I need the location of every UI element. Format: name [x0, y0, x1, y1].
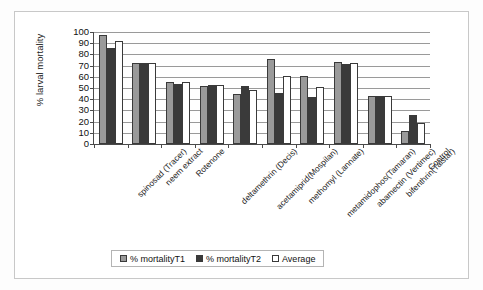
bar[interactable] [384, 96, 392, 144]
figure-container: % larval mortality 010203040506070809010… [0, 0, 483, 290]
y-axis-tick-label: 80 [78, 50, 89, 60]
bar-group [396, 32, 430, 144]
y-axis-tick-label: 50 [78, 83, 89, 93]
bar[interactable] [401, 131, 409, 144]
legend-item[interactable]: % mortalityT2 [196, 254, 261, 264]
bar[interactable] [342, 64, 350, 144]
chart-frame: % larval mortality 010203040506070809010… [14, 11, 469, 279]
bar[interactable] [200, 86, 208, 144]
bar-group [161, 32, 195, 144]
y-axis-tick-label: 0 [84, 139, 89, 149]
bar[interactable] [376, 96, 384, 144]
y-axis-tick-label: 90 [78, 38, 89, 48]
bar[interactable] [182, 82, 190, 144]
bar[interactable] [216, 85, 224, 144]
legend-swatch-icon [272, 255, 279, 262]
legend-label: Average [282, 254, 315, 264]
bar-group [262, 32, 296, 144]
bar[interactable] [334, 62, 342, 144]
bar[interactable] [267, 59, 275, 144]
bar[interactable] [417, 123, 425, 144]
y-axis-tick-label: 70 [78, 61, 89, 71]
bar-group [128, 32, 162, 144]
chart-legend: % mortalityT1% mortalityT2Average [111, 250, 324, 267]
bar-groups [94, 32, 430, 144]
plot-wrapper: % larval mortality 010203040506070809010… [15, 12, 470, 280]
bar-group [363, 32, 397, 144]
legend-label: % mortalityT2 [206, 254, 261, 264]
bar[interactable] [409, 115, 417, 144]
bar[interactable] [316, 87, 324, 144]
bar[interactable] [208, 85, 216, 144]
bar[interactable] [140, 63, 148, 144]
x-axis-category-labels: spinosad (Tracer)neem extractRotenonedel… [93, 146, 429, 242]
legend-item[interactable]: Average [272, 254, 315, 264]
y-axis-tick-label: 20 [78, 117, 89, 127]
bar-group [296, 32, 330, 144]
y-axis-tick-label: 10 [78, 128, 89, 138]
bar[interactable] [283, 76, 291, 144]
bar[interactable] [174, 84, 182, 144]
plot-area [93, 32, 430, 145]
bar[interactable] [99, 35, 107, 144]
bar[interactable] [249, 90, 257, 144]
bar-group [195, 32, 229, 144]
bar[interactable] [233, 94, 241, 144]
y-axis-tick-labels: 0102030405060708090100 [61, 32, 89, 144]
bar-group [228, 32, 262, 144]
y-axis-title: % larval mortality [34, 15, 54, 125]
bar[interactable] [308, 97, 316, 144]
y-axis-tick-label: 60 [78, 72, 89, 82]
y-axis-tick-label: 40 [78, 94, 89, 104]
bar[interactable] [166, 82, 174, 144]
bar-group [329, 32, 363, 144]
bar-group [94, 32, 128, 144]
legend-swatch-icon [196, 255, 203, 262]
y-axis-tick-label: 30 [78, 106, 89, 116]
bar[interactable] [241, 86, 249, 144]
bar[interactable] [300, 76, 308, 144]
bar[interactable] [368, 96, 376, 144]
y-axis-tick-label: 100 [73, 27, 89, 37]
bar[interactable] [132, 63, 140, 144]
bar[interactable] [350, 63, 358, 144]
bar[interactable] [107, 48, 115, 144]
bar[interactable] [148, 63, 156, 144]
bar[interactable] [115, 41, 123, 144]
bar[interactable] [275, 93, 283, 144]
legend-label: % mortalityT1 [130, 254, 185, 264]
legend-item[interactable]: % mortalityT1 [120, 254, 185, 264]
legend-swatch-icon [120, 255, 127, 262]
